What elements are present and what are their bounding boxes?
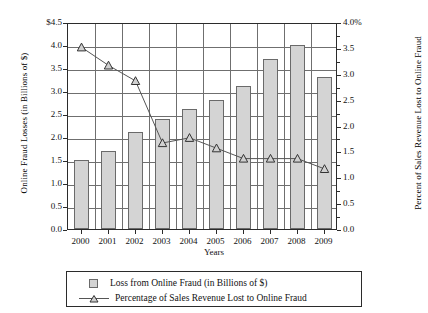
y-left-ticklabel: 2.0 (26, 133, 62, 142)
legend-label-bar: Loss from Online Fraud (in Billions of $… (110, 278, 268, 289)
y-right-tick (337, 178, 341, 179)
y-right-ticklabel: 3.0 (343, 70, 383, 79)
y-left-ticklabel: 3.5 (26, 64, 62, 73)
y-left-tick (63, 184, 67, 185)
y-right-tick (337, 23, 341, 24)
y-right-tick (337, 75, 341, 76)
legend-item-bar: Loss from Online Fraud (in Billions of $… (67, 276, 361, 291)
y-right-ticklabel: 0.5 (343, 199, 383, 208)
y-left-ticklabel: 3.0 (26, 87, 62, 96)
y-left-tick (63, 138, 67, 139)
y-right-tick (337, 101, 341, 102)
y-right-ticklabel: 4.0% (343, 18, 383, 27)
y-right-minor-tick (337, 114, 340, 115)
y-right-ticklabel: 1.5 (343, 147, 383, 156)
y-left-ticklabel: $4.5 (26, 18, 62, 27)
legend-label-line: Percentage of Sales Revenue Lost to Onli… (115, 293, 307, 304)
marker-2009 (320, 165, 328, 173)
y-axis-right-title: Percent of Sales Revenue Lost to Online … (413, 23, 423, 223)
marker-2002 (131, 77, 139, 85)
marker-2000 (77, 43, 85, 51)
line-series (68, 24, 338, 231)
y-left-tick (63, 161, 67, 162)
y-right-ticklabel: 0.0 (343, 225, 383, 234)
chart-figure: Online Fraud Losses (in Billions of $) P… (0, 0, 428, 313)
x-tick (135, 230, 136, 234)
y-left-tick (63, 230, 67, 231)
y-left-tick (63, 23, 67, 24)
marker-2004 (185, 134, 193, 142)
y-right-ticklabel: 1.0 (343, 173, 383, 182)
x-tick (189, 230, 190, 234)
y-left-ticklabel: 1.5 (26, 156, 62, 165)
chart-legend: Loss from Online Fraud (in Billions of $… (66, 271, 362, 307)
plot-area (67, 23, 337, 230)
legend-item-line: Percentage of Sales Revenue Lost to Onli… (67, 291, 361, 306)
y-right-tick (337, 127, 341, 128)
x-tick (324, 230, 325, 234)
line-path (82, 47, 325, 169)
y-axis-left-ticklabels: $4.54.03.53.02.52.01.51.00.50.0 (22, 0, 62, 313)
marker-2001 (104, 61, 112, 69)
y-left-ticklabel: 1.0 (26, 179, 62, 188)
y-right-tick (337, 230, 341, 231)
x-tick (270, 230, 271, 234)
y-left-tick (63, 207, 67, 208)
y-right-minor-tick (337, 36, 340, 37)
y-left-tick (63, 46, 67, 47)
y-left-ticklabel: 4.0 (26, 41, 62, 50)
marker-2005 (212, 144, 220, 152)
x-tick (162, 230, 163, 234)
y-left-ticklabel: 0.0 (26, 225, 62, 234)
x-tick (216, 230, 217, 234)
y-left-tick (63, 69, 67, 70)
y-right-ticklabel: 2.0 (343, 122, 383, 131)
x-tick (297, 230, 298, 234)
legend-square-swatch-icon (89, 279, 98, 288)
y-left-ticklabel: 0.5 (26, 202, 62, 211)
y-right-tick (337, 152, 341, 153)
x-ticklabel-2009: 2009 (307, 236, 341, 246)
x-tick (243, 230, 244, 234)
y-right-tick (337, 49, 341, 50)
x-tick (81, 230, 82, 234)
y-left-tick (63, 115, 67, 116)
y-right-ticklabel: 2.5 (343, 96, 383, 105)
x-tick (108, 230, 109, 234)
y-axis-right-ticklabels: 4.0%3.53.02.52.01.51.00.50.0 (343, 0, 387, 313)
y-right-minor-tick (337, 165, 340, 166)
y-right-tick (337, 204, 341, 205)
y-right-minor-tick (337, 62, 340, 63)
y-left-ticklabel: 2.5 (26, 110, 62, 119)
legend-line-triangle-icon (79, 294, 109, 303)
y-right-minor-tick (337, 191, 340, 192)
y-right-minor-tick (337, 217, 340, 218)
y-right-ticklabel: 3.5 (343, 44, 383, 53)
y-right-minor-tick (337, 88, 340, 89)
y-left-tick (63, 92, 67, 93)
y-right-minor-tick (337, 139, 340, 140)
